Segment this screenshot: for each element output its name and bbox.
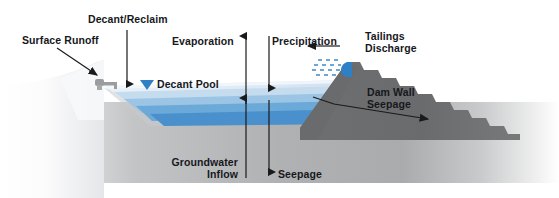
label-tailings-discharge-line1: Tailings xyxy=(365,30,405,42)
label-groundwater-inflow-line2: Inflow xyxy=(130,168,238,180)
decant-tower-base xyxy=(97,85,102,90)
decant-tower-riser xyxy=(114,82,117,89)
tailings-spray-dashes xyxy=(312,60,341,75)
tailings-discharge-spigot xyxy=(312,60,352,77)
label-surface-runoff: Surface Runoff xyxy=(22,34,99,46)
decant-tower-head xyxy=(95,79,104,86)
label-tailings-discharge-line2: Discharge xyxy=(365,42,417,54)
label-dam-wall-seepage-line2: Seepage xyxy=(367,98,411,110)
label-groundwater-inflow-line1: Groundwater xyxy=(130,156,238,168)
label-decant-pool: Decant Pool xyxy=(157,78,219,90)
label-decant-reclaim: Decant/Reclaim xyxy=(88,13,168,25)
label-precipitation: Precipitation xyxy=(272,35,337,47)
left-embankment xyxy=(0,60,104,198)
label-evaporation: Evaporation xyxy=(172,35,234,47)
tailings-dam-water-balance-diagram: Surface Runoff Decant/Reclaim Decant Poo… xyxy=(0,0,559,198)
label-seepage: Seepage xyxy=(278,168,322,180)
label-dam-wall-seepage-line1: Dam Wall xyxy=(367,86,415,98)
